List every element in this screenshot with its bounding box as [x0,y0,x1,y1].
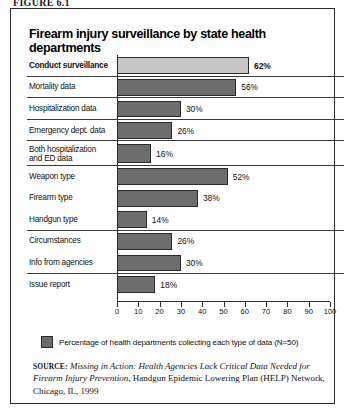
bar-category-label: Emergency dept. data [29,126,117,135]
bar-category-label: Circumstances [29,237,117,246]
bar-track: 18% [117,274,344,296]
bar-track: 30% [117,98,344,120]
bar-row: Info from agencies30% [23,252,344,274]
bar-value-label: 26% [177,236,194,246]
bar-row: Issue report18% [23,274,344,296]
x-axis-tick-label: 20 [155,307,163,316]
chart-title: Firearm injury surveillance by state hea… [29,28,329,56]
bar-track: 30% [117,252,344,274]
bar [117,79,236,96]
bar-track: 16% [117,141,344,165]
bar-category-label: Info from agencies [29,258,117,267]
bar-value-label: 38% [203,193,220,203]
bar [117,168,228,185]
bar-value-label: 16% [156,149,173,159]
bar-category-label: Both hospitalizationand ED data [29,144,117,162]
x-axis-tick-label: 10 [134,307,142,316]
bar [117,144,151,164]
source-note: SOURCE: Missing in Action: Health Agenci… [33,360,329,397]
bar [117,233,172,250]
bar [117,276,155,293]
bar-track: 26% [117,231,344,253]
y-axis-line [117,55,118,302]
bar-chart-plot: Conduct surveillance62%Mortality data56%… [23,55,344,302]
legend-swatch-icon [41,336,53,348]
x-axis-tick-label: 30 [177,307,185,316]
bar-category-label: Firearm type [29,194,117,203]
bar-category-label: Issue report [29,280,117,289]
x-axis-tick-label: 90 [304,307,312,316]
bar-row: Emergency dept. data26% [23,120,344,142]
bar-row: Mortality data56% [23,77,344,99]
bar-value-label: 18% [160,280,177,290]
x-axis-tick-label: 40 [198,307,206,316]
bar [117,122,172,139]
bar-value-label: 14% [152,215,169,225]
x-axis-tick-label: 70 [262,307,270,316]
bar-value-label: 30% [186,104,203,114]
bar-row: Circumstances26% [23,231,344,253]
bar-value-label: 52% [233,172,250,182]
bar-category-label: Mortality data [29,83,117,92]
bar-track: 52% [117,166,344,188]
bar-category-label: Hospitalization data [29,104,117,113]
bar-row: Hospitalization data30% [23,98,344,120]
bar-value-label: 30% [186,258,203,268]
x-axis-tick-label: 100 [324,307,337,316]
bar [117,211,147,228]
x-axis-tick-label: 60 [241,307,249,316]
bar [117,101,181,118]
legend-label: Percentage of health departments collect… [59,338,298,347]
x-axis-tick-labels: 0102030405060708090100 [23,307,344,319]
bar-track: 62% [117,55,344,77]
bar [117,190,198,207]
bar-track: 38% [117,187,344,209]
bar-track: 14% [117,209,344,231]
source-note-label: SOURCE: [33,362,68,371]
bar-track: 56% [117,77,344,99]
bar-row: Handgun type14% [23,209,344,231]
chart-legend: Percentage of health departments collect… [41,336,298,348]
bar [117,57,249,74]
x-axis-tick-label: 80 [283,307,291,316]
x-axis-tick-label: 0 [115,307,119,316]
bar-row: Weapon type52% [23,166,344,188]
bar-track: 26% [117,120,344,142]
bar-value-label: 56% [241,82,258,92]
bar-category-label: Weapon type [29,172,117,181]
bar-row: Conduct surveillance62% [23,55,344,77]
bar-value-label: 26% [177,126,194,136]
bar [117,255,181,272]
bar-rows: Conduct surveillance62%Mortality data56%… [23,55,344,295]
bar-category-label: Conduct surveillance [29,61,117,70]
bar-row: Firearm type38% [23,187,344,209]
figure-number: FIGURE 6.1 [13,0,70,8]
bar-value-label: 62% [254,61,271,71]
x-axis-tick-label: 50 [219,307,227,316]
bar-row: Both hospitalizationand ED data16% [23,141,344,165]
figure-frame: Firearm injury surveillance by state hea… [10,8,335,404]
bar-category-label: Handgun type [29,215,117,224]
